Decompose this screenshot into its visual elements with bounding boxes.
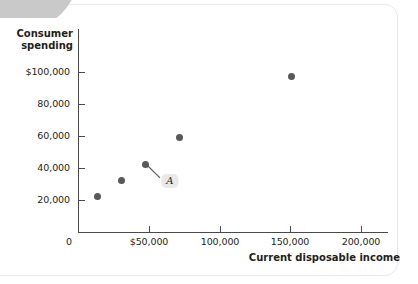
x-tick-label-200000: 200,000	[342, 236, 381, 247]
y-tick-mark-80000	[79, 104, 85, 105]
y-tick-label-20000: 20,000	[37, 194, 70, 205]
figure-root: Consumerspending Current disposable inco…	[0, 0, 418, 284]
y-tick-label-60000: 60,000	[37, 130, 70, 141]
x-axis-title: Current disposable income	[249, 252, 400, 264]
x-tick-mark-100000	[220, 226, 221, 232]
y-tick-mark-60000	[79, 136, 85, 137]
data-point-3	[176, 134, 183, 141]
x-tick-label-0: 0	[66, 236, 72, 247]
y-tick-mark-20000	[79, 200, 85, 201]
y-tick-label-100000: $100,000	[25, 66, 70, 77]
y-axis-line	[78, 29, 79, 233]
x-tick-label-50000: $50,000	[130, 236, 169, 247]
y-axis-title-line1: Consumer	[16, 28, 73, 39]
x-tick-mark-150000	[290, 226, 291, 232]
y-axis-title-line2: spending	[21, 40, 73, 51]
data-point-0	[94, 193, 101, 200]
scatter-plot: Consumerspending Current disposable inco…	[0, 0, 418, 284]
x-tick-mark-200000	[361, 226, 362, 232]
x-tick-mark-0	[78, 226, 79, 232]
x-tick-label-100000: 100,000	[201, 236, 240, 247]
y-tick-label-40000: 40,000	[37, 162, 70, 173]
x-tick-mark-50000	[149, 226, 150, 232]
x-tick-label-150000: 150,000	[271, 236, 310, 247]
y-axis-title: Consumerspending	[13, 28, 73, 51]
data-point-1	[118, 177, 125, 184]
y-tick-mark-40000	[79, 168, 85, 169]
y-tick-mark-100000	[79, 72, 85, 73]
data-point-4	[288, 73, 295, 80]
x-axis-line	[78, 232, 388, 233]
data-point-label-a: A	[161, 174, 178, 188]
data-point-a	[142, 161, 149, 168]
y-tick-label-80000: 80,000	[37, 98, 70, 109]
